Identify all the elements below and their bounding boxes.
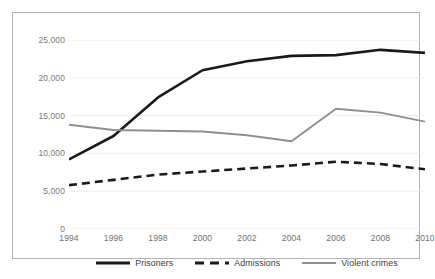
legend-item-admissions[interactable]: Admissions [195, 258, 280, 268]
legend-swatch-icon [302, 258, 336, 268]
y-tick-label: 25,000 [21, 35, 65, 45]
series-line-violent-crimes [69, 109, 425, 142]
legend-item-violent-crimes[interactable]: Violent crimes [302, 258, 397, 268]
y-tick-label: 10,000 [21, 148, 65, 158]
legend-swatch-icon [96, 258, 130, 268]
x-tick-label: 1994 [59, 233, 78, 243]
legend-label: Violent crimes [341, 258, 397, 268]
x-tick-label: 2000 [193, 233, 212, 243]
x-tick-label: 2002 [237, 233, 256, 243]
x-tick-label: 2010 [415, 233, 434, 243]
legend-label: Admissions [234, 258, 280, 268]
x-tick-label: 2004 [282, 233, 301, 243]
plot-area [69, 40, 425, 229]
y-tick-label: 5,000 [21, 186, 65, 196]
series-lines [69, 50, 425, 185]
y-tick-label: 20,000 [21, 73, 65, 83]
x-axis: 199419961998200020022004200620082010 [69, 233, 425, 247]
x-tick-label: 1998 [148, 233, 167, 243]
chart-legend: PrisonersAdmissionsViolent crimes [69, 255, 425, 271]
series-line-prisoners [69, 50, 425, 160]
x-tick-label: 1996 [104, 233, 123, 243]
x-tick-label: 2008 [371, 233, 390, 243]
plot-svg [69, 40, 425, 229]
legend-label: Prisoners [135, 258, 173, 268]
legend-swatch-icon [195, 258, 229, 268]
y-axis: 25,00020,00015,00010,0005,0000 [19, 40, 65, 229]
legend-item-prisoners[interactable]: Prisoners [96, 258, 173, 268]
chart-frame: 25,00020,00015,00010,0005,0000 199419961… [12, 12, 420, 259]
y-tick-label: 15,000 [21, 111, 65, 121]
x-tick-label: 2006 [326, 233, 345, 243]
series-line-admissions [69, 162, 425, 185]
